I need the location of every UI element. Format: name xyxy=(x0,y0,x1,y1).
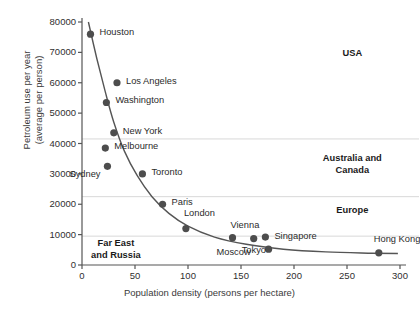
y-axis-tick-label: 80000 xyxy=(30,16,76,27)
point-label-new-york[interactable]: New York xyxy=(123,126,162,136)
point-label-moscow[interactable]: Moscow xyxy=(217,247,251,257)
data-point-marker[interactable] xyxy=(87,31,94,38)
y-axis-tick-label: 50000 xyxy=(30,107,76,118)
point-label-london[interactable]: London xyxy=(184,208,215,218)
x-axis-tick-label: 0 xyxy=(62,270,102,281)
point-label-sydney[interactable]: Sydney xyxy=(69,169,100,179)
data-point-marker[interactable] xyxy=(250,235,257,242)
x-axis-tick-label: 300 xyxy=(380,270,420,281)
data-point-marker[interactable] xyxy=(229,234,236,241)
y-axis-tick-label: 40000 xyxy=(30,138,76,149)
data-point-marker[interactable] xyxy=(102,144,109,151)
x-axis-tick-label: 250 xyxy=(327,270,367,281)
data-point-marker[interactable] xyxy=(375,249,382,256)
y-axis-tick-label: 60000 xyxy=(30,77,76,88)
point-label-houston[interactable]: Houston xyxy=(99,27,134,37)
point-label-singapore[interactable]: Singapore xyxy=(274,231,316,241)
point-label-washington[interactable]: Washington xyxy=(115,95,164,105)
x-axis-tick-label: 50 xyxy=(115,270,155,281)
point-label-toronto[interactable]: Toronto xyxy=(151,167,182,177)
data-point-marker[interactable] xyxy=(262,233,269,240)
y-axis-title: Petroleum use per year (average per pers… xyxy=(21,5,45,195)
y-axis-tick-label: 70000 xyxy=(30,46,76,57)
point-label-los-angeles[interactable]: Los Angeles xyxy=(126,76,177,86)
point-label-hong-kong[interactable]: Hong Kong xyxy=(374,234,420,244)
x-axis-tick-label: 150 xyxy=(221,270,261,281)
x-axis-title: Population density (persons per hectare) xyxy=(0,287,419,298)
x-axis-tick-label: 200 xyxy=(274,270,314,281)
data-point-marker[interactable] xyxy=(110,129,117,136)
data-point-marker[interactable] xyxy=(265,246,272,253)
region-label-europe: Europe xyxy=(302,205,402,217)
data-point-marker[interactable] xyxy=(113,79,120,86)
point-label-melbourne[interactable]: Melbourne xyxy=(114,141,158,151)
point-label-paris[interactable]: Paris xyxy=(172,197,193,207)
data-point-marker[interactable] xyxy=(139,170,146,177)
data-point-marker[interactable] xyxy=(103,99,110,106)
region-label-usa: USA xyxy=(302,48,402,60)
region-label-australia-and: Australia and Canada xyxy=(302,153,402,176)
point-label-vienna[interactable]: Vienna xyxy=(231,220,260,230)
y-axis-tick-label: 20000 xyxy=(30,198,76,209)
data-point-marker[interactable] xyxy=(159,201,166,208)
data-point-marker[interactable] xyxy=(104,163,111,170)
x-axis-tick-label: 100 xyxy=(168,270,208,281)
data-point-marker[interactable] xyxy=(182,225,189,232)
region-label-far-east: Far East and Russia xyxy=(66,238,166,261)
